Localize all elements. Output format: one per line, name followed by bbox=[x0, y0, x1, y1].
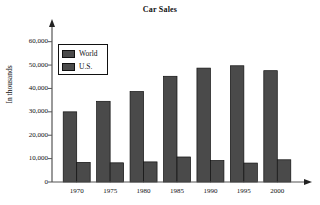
legend-item-us: U.S. bbox=[62, 61, 92, 72]
bar-us-1990 bbox=[210, 160, 224, 182]
bar-us-1995 bbox=[244, 163, 257, 182]
bar-us-1970 bbox=[77, 162, 91, 182]
chart-legend: World U.S. bbox=[58, 44, 108, 75]
bar-world-1995 bbox=[230, 66, 244, 182]
bar-us-1985 bbox=[177, 157, 191, 182]
bar-world-1975 bbox=[97, 101, 111, 182]
x-axis-arrowhead bbox=[304, 179, 312, 185]
bar-world-1980 bbox=[130, 91, 144, 182]
legend-label-us: U.S. bbox=[79, 63, 92, 71]
bar-world-1970 bbox=[63, 112, 77, 182]
x-tick-label: 1970 bbox=[70, 188, 84, 195]
plot-area bbox=[0, 0, 320, 205]
legend-label-world: World bbox=[79, 50, 98, 58]
legend-swatch-us bbox=[62, 63, 75, 71]
x-tick-label: 2000 bbox=[270, 188, 284, 195]
bar-us-1980 bbox=[144, 162, 158, 182]
bar-us-1975 bbox=[110, 163, 124, 182]
bars-group bbox=[63, 66, 291, 182]
legend-swatch-world bbox=[62, 50, 75, 58]
bar-world-1985 bbox=[164, 76, 178, 182]
x-tick-label: 1990 bbox=[203, 188, 217, 195]
x-tick-label: 1995 bbox=[237, 188, 251, 195]
bar-world-2000 bbox=[264, 71, 278, 182]
bar-us-2000 bbox=[277, 160, 291, 182]
x-tick-label: 1975 bbox=[103, 188, 117, 195]
legend-item-world: World bbox=[62, 48, 98, 59]
x-tick-label: 1980 bbox=[137, 188, 151, 195]
car-sales-bar-chart: Car Sales In thousands 010,00020,00030,0… bbox=[0, 0, 320, 205]
x-tick-label: 1985 bbox=[170, 188, 184, 195]
bar-world-1990 bbox=[197, 68, 211, 182]
y-axis-arrowhead bbox=[49, 19, 55, 27]
